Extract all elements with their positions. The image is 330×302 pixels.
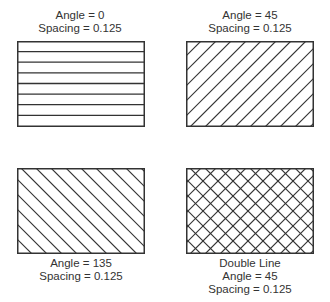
crosshatch-pattern [186, 168, 314, 254]
label-line: Double Line [170, 257, 330, 270]
label-line: Angle = 135 [1, 257, 161, 270]
label-line: Spacing = 0.125 [170, 283, 330, 296]
label-line: Angle = 45 [170, 270, 330, 283]
hatch-panel-double-line-45 [186, 168, 314, 254]
label-angle-0: Angle = 0 Spacing = 0.125 [0, 9, 160, 35]
diagonal-hatch-pattern-135 [17, 168, 145, 254]
diagonal-hatch-pattern-45 [186, 41, 314, 127]
label-line: Spacing = 0.125 [170, 22, 330, 35]
hatch-panel-angle-135 [17, 168, 145, 254]
horizontal-hatch-pattern [17, 41, 145, 127]
label-angle-45: Angle = 45 Spacing = 0.125 [170, 9, 330, 35]
label-double-line-45: Double Line Angle = 45 Spacing = 0.125 [170, 257, 330, 296]
label-line: Angle = 45 [170, 9, 330, 22]
hatch-panel-angle-45 [186, 41, 314, 127]
hatch-panel-angle-0 [17, 41, 145, 127]
label-line: Spacing = 0.125 [1, 270, 161, 283]
label-line: Angle = 0 [0, 9, 160, 22]
label-angle-135: Angle = 135 Spacing = 0.125 [1, 257, 161, 283]
label-line: Spacing = 0.125 [0, 22, 160, 35]
